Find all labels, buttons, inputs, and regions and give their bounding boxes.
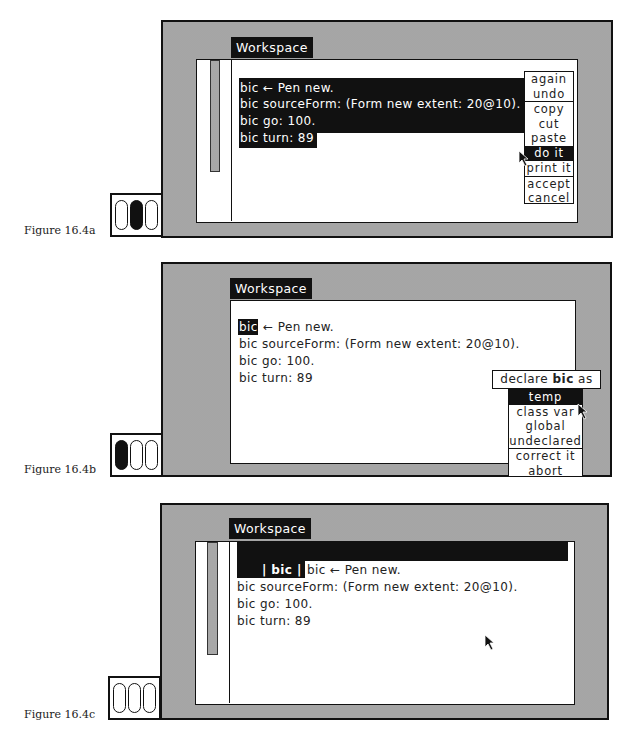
mouse-yellow-button-icon: [128, 683, 141, 713]
figure-caption: Figure 16.4a: [24, 224, 96, 237]
menu-item-cancel[interactable]: cancel: [525, 191, 573, 206]
declare-variable: bic: [552, 372, 573, 386]
window-title-tab[interactable]: Workspace: [231, 37, 313, 58]
mouse-red-button-icon: [113, 683, 126, 713]
mouse-pointer-icon: [518, 150, 532, 168]
declare-prefix: declare: [500, 372, 552, 386]
menu-item-cut[interactable]: cut: [525, 117, 573, 132]
menu-item-global[interactable]: global: [509, 419, 582, 434]
window-title-tab[interactable]: Workspace: [229, 518, 311, 539]
code-line[interactable]: bic turn: 89: [239, 370, 313, 386]
menu-item-undeclared[interactable]: undeclared: [509, 434, 582, 449]
mouse-button-indicator: [110, 433, 163, 477]
code-line[interactable]: bic go: 100.: [237, 596, 313, 612]
declare-menu: temp class var global undeclared correct…: [508, 389, 583, 477]
mouse-yellow-button-icon: [130, 440, 143, 470]
menu-item-paste[interactable]: paste: [525, 131, 573, 146]
figure-caption: Figure 16.4b: [24, 463, 96, 476]
code-line[interactable]: bic ← Pen new.: [307, 562, 401, 578]
mouse-pointer-icon: [577, 403, 591, 421]
code-line[interactable]: ← Pen new.: [263, 319, 334, 335]
menu-item-accept[interactable]: accept: [525, 176, 573, 192]
text-selection: [237, 542, 568, 561]
menu-item-correct-it[interactable]: correct it: [509, 448, 582, 464]
code-line[interactable]: bic sourceForm: (Form new extent: 20@10)…: [239, 336, 520, 352]
code-line[interactable]: bic go: 100.: [240, 113, 316, 129]
mouse-red-button-icon: [115, 200, 128, 230]
menu-item-undo[interactable]: undo: [525, 87, 573, 102]
gutter-divider: [231, 60, 232, 221]
menu-item-again[interactable]: again: [525, 72, 573, 87]
menu-item-class-var[interactable]: class var: [509, 405, 582, 420]
menu-item-temp[interactable]: temp: [509, 390, 582, 405]
mouse-yellow-button-icon: [130, 200, 143, 230]
code-line[interactable]: bic sourceForm: (Form new extent: 20@10)…: [237, 579, 518, 595]
code-line[interactable]: bic turn: 89: [240, 130, 314, 146]
mouse-blue-button-icon: [145, 200, 158, 230]
mouse-blue-button-icon: [145, 440, 158, 470]
highlighted-word[interactable]: bic: [239, 319, 258, 335]
menu-item-do-it[interactable]: do it: [525, 146, 573, 161]
mouse-red-button-icon: [115, 440, 128, 470]
declare-prompt: declare bic as: [492, 370, 601, 389]
code-line[interactable]: bic sourceForm: (Form new extent: 20@10)…: [240, 96, 521, 112]
mouse-pointer-icon: [484, 634, 498, 652]
menu-item-abort[interactable]: abort: [509, 464, 582, 479]
code-line[interactable]: bic ← Pen new.: [240, 80, 334, 96]
inserted-declaration[interactable]: | bic |: [262, 562, 302, 578]
mouse-button-indicator: [110, 193, 163, 237]
code-line[interactable]: bic turn: 89: [237, 613, 311, 629]
mouse-blue-button-icon: [143, 683, 156, 713]
scrollbar[interactable]: [207, 542, 218, 655]
declare-suffix: as: [574, 372, 593, 386]
window-title-tab[interactable]: Workspace: [230, 278, 312, 299]
menu-item-print-it[interactable]: print it: [525, 160, 573, 176]
gutter-divider: [229, 542, 230, 703]
code-line[interactable]: bic go: 100.: [239, 353, 315, 369]
yellow-button-menu: again undo copy cut paste do it print it…: [524, 71, 574, 204]
menu-item-copy[interactable]: copy: [525, 101, 573, 117]
scrollbar[interactable]: [210, 60, 220, 172]
mouse-button-indicator: [108, 676, 161, 720]
figure-caption: Figure 16.4c: [24, 708, 95, 721]
